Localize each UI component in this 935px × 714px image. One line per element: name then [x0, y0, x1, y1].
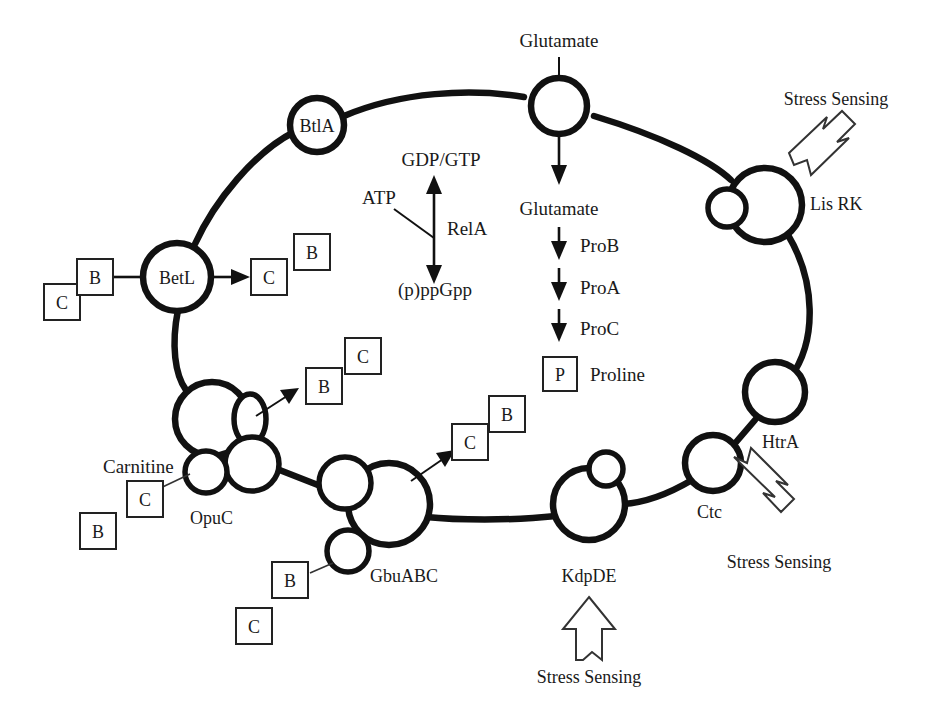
glutamate-extracellular-label: Glutamate [519, 30, 598, 51]
molecule-box-gbu-b-out: B [489, 396, 525, 432]
prob-label: ProB [580, 235, 619, 256]
stress-sensing-kdpde: Stress Sensing [537, 597, 642, 687]
molecule-box-opuc-b-out: B [80, 513, 116, 549]
protein-kdpde[interactable]: KdpDE [553, 452, 625, 586]
opuc-uptake-arrowhead [280, 388, 299, 404]
stress-sensing-kdpde-label: Stress Sensing [537, 667, 642, 687]
proline-tag-label: P [555, 365, 565, 385]
gbu-b-out-label: B [501, 405, 513, 425]
htra-circle[interactable] [745, 362, 805, 422]
gbuabc-box-annotation [310, 563, 333, 573]
opuc-c-out-label: C [139, 490, 151, 510]
opuc-b-in-label: B [318, 377, 330, 397]
ctc-label: Ctc [697, 502, 722, 522]
pathway-diagram: BtlA Lis RK HtrA Ctc KdpDE GbuABC Op [0, 0, 935, 714]
gdp-gtp-label: GDP/GTP [401, 149, 480, 170]
protein-ctc[interactable]: Ctc [685, 435, 741, 522]
opuc-b-out-label: B [92, 522, 104, 542]
proa-arrowhead [551, 282, 567, 301]
ctc-circle[interactable] [685, 435, 741, 491]
proc-label: ProC [580, 318, 619, 339]
betl-outflow-arrowhead [231, 269, 250, 285]
protein-htra[interactable]: HtrA [745, 362, 805, 452]
rela-label: RelA [447, 218, 487, 239]
kdpde-small-circle[interactable] [589, 452, 623, 486]
pppgpp-label: (p)ppGpp [398, 279, 472, 301]
opuc-label: OpuC [190, 508, 233, 528]
proa-label: ProA [580, 277, 620, 298]
molecule-box-betl-b-in: B [294, 234, 330, 270]
glutamate-intracellular-label: Glutamate [519, 198, 598, 219]
stress-sensing-ctc: Stress Sensing [727, 448, 832, 572]
betl-b-in-label: B [306, 243, 318, 263]
cell-membrane-diagram: BtlA Lis RK HtrA Ctc KdpDE GbuABC Op [0, 0, 935, 714]
membrane-segment-top-right [594, 116, 731, 180]
molecule-box-betl-c-in: C [251, 259, 287, 295]
betl-label: BetL [159, 268, 195, 288]
prob-arrowhead [551, 241, 567, 260]
glutamate-outflow-arrowhead [551, 165, 567, 185]
membrane-segment-kdpde-gbu [426, 516, 556, 520]
kdpde-label: KdpDE [562, 566, 617, 586]
glutamate-transporter-circle[interactable] [531, 78, 587, 134]
gbuabc-label: GbuABC [370, 566, 438, 586]
stress-sensing-lisrk-arrow [789, 111, 855, 175]
gbuabc-leader-line [310, 563, 333, 573]
membrane-segment-left-lower [175, 310, 186, 390]
htra-label: HtrA [762, 432, 799, 452]
gbu-c-in-label: C [248, 617, 260, 637]
molecule-box-gbu-c-out: C [452, 424, 488, 460]
proline-biosynthesis-pathway: ProB ProA ProC P Proline [543, 227, 645, 391]
stress-sensing-ctc-label: Stress Sensing [727, 552, 832, 572]
rela-arrowhead-up [426, 175, 442, 194]
opuc-c-in-label: C [357, 347, 369, 367]
membrane-segment-top-left [344, 93, 524, 116]
gbuabc-uptake-arrow [411, 450, 455, 481]
btla-label: BtlA [299, 116, 334, 136]
opuc-medium-circle[interactable] [225, 437, 279, 491]
protein-btla[interactable]: BtlA [290, 98, 344, 152]
gbu-c-out-label: C [464, 433, 476, 453]
carnitine-label: Carnitine [103, 456, 174, 477]
stress-sensing-lisrk: Stress Sensing [784, 89, 889, 175]
gbuabc-upper-circle[interactable] [319, 457, 371, 509]
molecule-box-opuc-c-out: C [127, 481, 163, 517]
gbu-b-in-label: B [284, 571, 296, 591]
betl-b-out-label: B [89, 268, 101, 288]
membrane-segment-left-upper [195, 132, 294, 244]
molecule-box-opuc-b-in: B [306, 368, 342, 404]
betl-c-out-label: C [56, 293, 68, 313]
protein-glutamate-transporter[interactable] [531, 78, 587, 134]
membrane-segment-gbu-opuc [277, 469, 323, 487]
rela-stringent-response: GDP/GTP ATP (p)ppGpp RelA [362, 149, 487, 301]
proline-label: Proline [590, 364, 645, 385]
membrane-segment-right [788, 235, 810, 378]
molecule-box-betl-b-out: B [77, 259, 113, 295]
molecule-box-gbu-b-in: B [272, 562, 308, 598]
membrane-segment-ctc-kdpde [623, 480, 692, 504]
proc-arrowhead [551, 323, 567, 342]
protein-betl[interactable]: BetL [143, 243, 211, 311]
atp-connector-line [394, 209, 434, 238]
gbuabc-lower-circle[interactable] [327, 530, 369, 572]
opuc-small-circle[interactable] [185, 451, 227, 493]
stress-sensing-lisrk-label: Stress Sensing [784, 89, 889, 109]
lisrk-label: Lis RK [810, 194, 863, 214]
molecule-box-betl-c-out: C [44, 284, 80, 320]
molecule-box-gbu-c-in: C [236, 608, 272, 644]
atp-label: ATP [362, 187, 396, 208]
stress-sensing-kdpde-arrow [563, 597, 615, 660]
betl-c-in-label: C [263, 268, 275, 288]
lisrk-small-circle[interactable] [708, 189, 746, 227]
protein-opuc[interactable]: OpuC [175, 382, 279, 528]
molecule-box-opuc-c-in: C [345, 338, 381, 374]
protein-gbuabc[interactable]: GbuABC [319, 457, 438, 586]
